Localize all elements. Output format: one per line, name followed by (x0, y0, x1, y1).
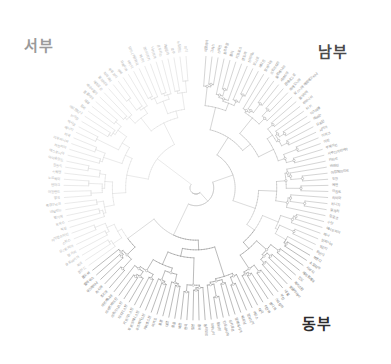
leaf-label: 과테말라 (163, 43, 171, 57)
leaf-label: 아랍에미리트 (331, 168, 349, 175)
leaf-label: 알제리 (330, 207, 340, 213)
leaf-label: 네팔 (284, 289, 292, 297)
leaf-label: 북한 (177, 323, 183, 330)
leaf-label: 페루 (83, 98, 91, 106)
region-label-west: 서부 (24, 34, 53, 55)
leaf-label: 칠레 (79, 103, 87, 111)
branch-layer (64, 56, 328, 320)
leaf-label: 싱가포르 (228, 319, 236, 332)
region-label-south: 남부 (318, 40, 347, 61)
leaf-label: 몽골 (171, 322, 176, 329)
leaf-label: 몰타 (228, 49, 235, 57)
leaf-label: 동티모르 (203, 323, 209, 335)
dendrogram-figure: 이탈리아그리스스페인포르투갈몰타키프로스안도라산마리노모나코바티칸알바니아크로아… (0, 0, 391, 364)
leaf-label: 카타르 (329, 156, 339, 163)
leaf-label: 아이슬란드 (48, 154, 64, 162)
leaf-label: 리비아 (332, 195, 342, 201)
leaf-label: 온두라스 (156, 44, 164, 57)
leaf-label: 호주 (170, 47, 176, 54)
leaf-label: 뉴질랜드 (176, 41, 182, 54)
leaf-label: 대만 (164, 320, 170, 327)
leaf-label: 중국 (197, 324, 201, 330)
leaf-label: 이탈리아 (203, 39, 209, 52)
leaf-label: 노르웨이 (48, 175, 60, 181)
leaf-label: 케냐 (323, 232, 330, 239)
leaf-label: 오만 (331, 176, 337, 181)
leaf-label: 포르투갈 (222, 43, 229, 56)
leaf-label: 에리트레아 (301, 270, 317, 284)
leaf-label: 그리스 (209, 44, 215, 54)
leaf-label: 터키 (305, 103, 313, 111)
leaf-label: 필리핀 (216, 322, 222, 332)
node-marker-layer (120, 83, 306, 298)
leaf-label: 바레인 (330, 162, 340, 168)
leaf-label: 미국 (64, 131, 71, 138)
leaf-label: 프랑스 (55, 220, 65, 227)
leaf-label: 네덜란드 (49, 207, 62, 214)
leaf-label: 예멘 (332, 182, 338, 187)
leaf-label: 부탄 (279, 293, 287, 301)
leaf-label: 이란 (323, 137, 330, 144)
leaf-label: 덴마크 (51, 182, 60, 187)
leaf-label: 수단 (327, 220, 334, 226)
leaf-label: 벨기에 (54, 213, 64, 220)
region-label-east: 동부 (302, 312, 331, 333)
leaf-label: 브루나이 (210, 323, 216, 335)
leaf-label: 독일 (60, 226, 67, 233)
leaf-label: 마카오 (150, 317, 157, 327)
leaf-label: 베트남 (240, 315, 248, 325)
leaf-label-layer: 이탈리아그리스스페인포르투갈몰타키프로스안도라산마리노모나코바티칸알바니아크로아… (46, 39, 350, 337)
leaf-label: 이집트 (332, 188, 341, 193)
leaf-label: 핀란드 (53, 162, 63, 168)
leaf-label: 튀니지 (331, 201, 341, 207)
leaf-label: 태국 (258, 307, 265, 315)
leaf-label: 영국 (54, 195, 60, 200)
leaf-label: 인도 (297, 275, 305, 283)
leaf-label: 피지 (183, 46, 188, 52)
leaf-label: 룩셈부르크 (46, 201, 61, 208)
leaf-label: 홍콩 (157, 319, 163, 326)
leaf-label: 스페인 (216, 45, 222, 55)
leaf-label: 한국 (183, 323, 188, 329)
leaf-label: 스웨덴 (52, 169, 62, 175)
leaf-label: 체코 (75, 260, 83, 267)
leaf-label: 아일랜드 (48, 188, 60, 193)
leaf-label: 모로코 (329, 214, 339, 220)
leaf-label: 일본 (190, 324, 195, 330)
